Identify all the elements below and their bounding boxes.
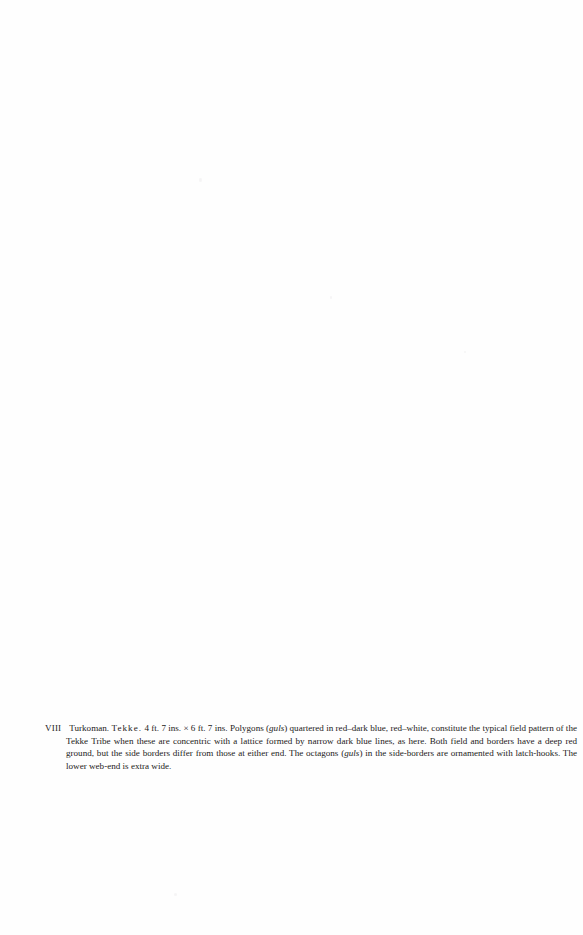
plate-caption: VIIITurkoman. Tekke. 4 ft. 7 ins. × 6 ft… xyxy=(45,722,577,772)
document-page: VIIITurkoman. Tekke. 4 ft. 7 ins. × 6 ft… xyxy=(0,0,583,935)
plate-tribe: Tekke. xyxy=(111,723,142,733)
caption-segment-1: Polygons ( xyxy=(230,723,269,733)
scan-speckle xyxy=(174,893,177,896)
scan-speckle xyxy=(330,296,332,299)
plate-number: VIII xyxy=(45,723,61,733)
plate-dimensions: 4 ft. 7 ins. × 6 ft. 7 ins. xyxy=(144,723,227,733)
scan-speckle xyxy=(464,351,466,353)
plate-origin: Turkoman. xyxy=(69,723,109,733)
term-guls-second: guls xyxy=(344,748,359,758)
term-guls-first: guls xyxy=(269,723,284,733)
scan-speckle xyxy=(199,178,202,182)
